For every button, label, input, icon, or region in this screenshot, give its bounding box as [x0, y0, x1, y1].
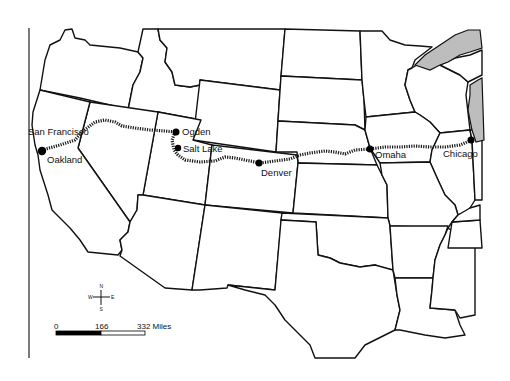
city-label-denver: Denver: [261, 167, 292, 178]
compass-west: W: [88, 294, 93, 300]
city-label-san-francisco: San Francisco: [28, 126, 89, 137]
city-label-oakland: Oakland: [47, 154, 82, 165]
scale-tick-166: 166: [95, 322, 109, 331]
scale-bar: 0 166 332 Miles: [54, 322, 171, 335]
scale-tick-332-miles: 332 Miles: [137, 322, 171, 331]
city-label-omaha: Omaha: [375, 149, 407, 160]
city-label-salt-lake: Salt Lake: [183, 143, 223, 154]
us-map-svg: San Francisco Oakland Ogden Salt Lake De…: [0, 0, 510, 381]
state-colorado: [205, 145, 298, 213]
compass-south: S: [100, 306, 104, 312]
compass-rose-icon: N S E W: [88, 283, 115, 312]
city-marker-oakland: [38, 147, 46, 155]
state-north-dakota: [281, 29, 362, 80]
state-kansas: [293, 163, 388, 218]
city-label-chicago: Chicago: [443, 148, 478, 159]
scale-tick-0: 0: [54, 322, 59, 331]
city-marker-omaha: [367, 146, 374, 153]
city-label-ogden: Ogden: [182, 126, 211, 137]
state-new-mexico: [192, 205, 282, 290]
city-marker-ogden: [173, 129, 180, 136]
compass-east: E: [111, 294, 115, 300]
compass-north: N: [100, 283, 104, 289]
state-tennessee: [448, 220, 482, 248]
city-marker-salt-lake: [175, 145, 181, 151]
city-marker-denver: [256, 160, 263, 167]
state-wyoming: [193, 80, 280, 152]
state-montana: [158, 29, 285, 90]
map-container: San Francisco Oakland Ogden Salt Lake De…: [0, 0, 510, 381]
city-marker-chicago: [468, 137, 475, 144]
